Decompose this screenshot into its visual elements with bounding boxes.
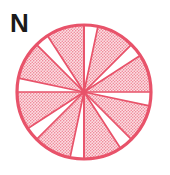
north-orientation-label: N [10, 10, 29, 36]
rose-diagram-figure: N [0, 0, 170, 175]
